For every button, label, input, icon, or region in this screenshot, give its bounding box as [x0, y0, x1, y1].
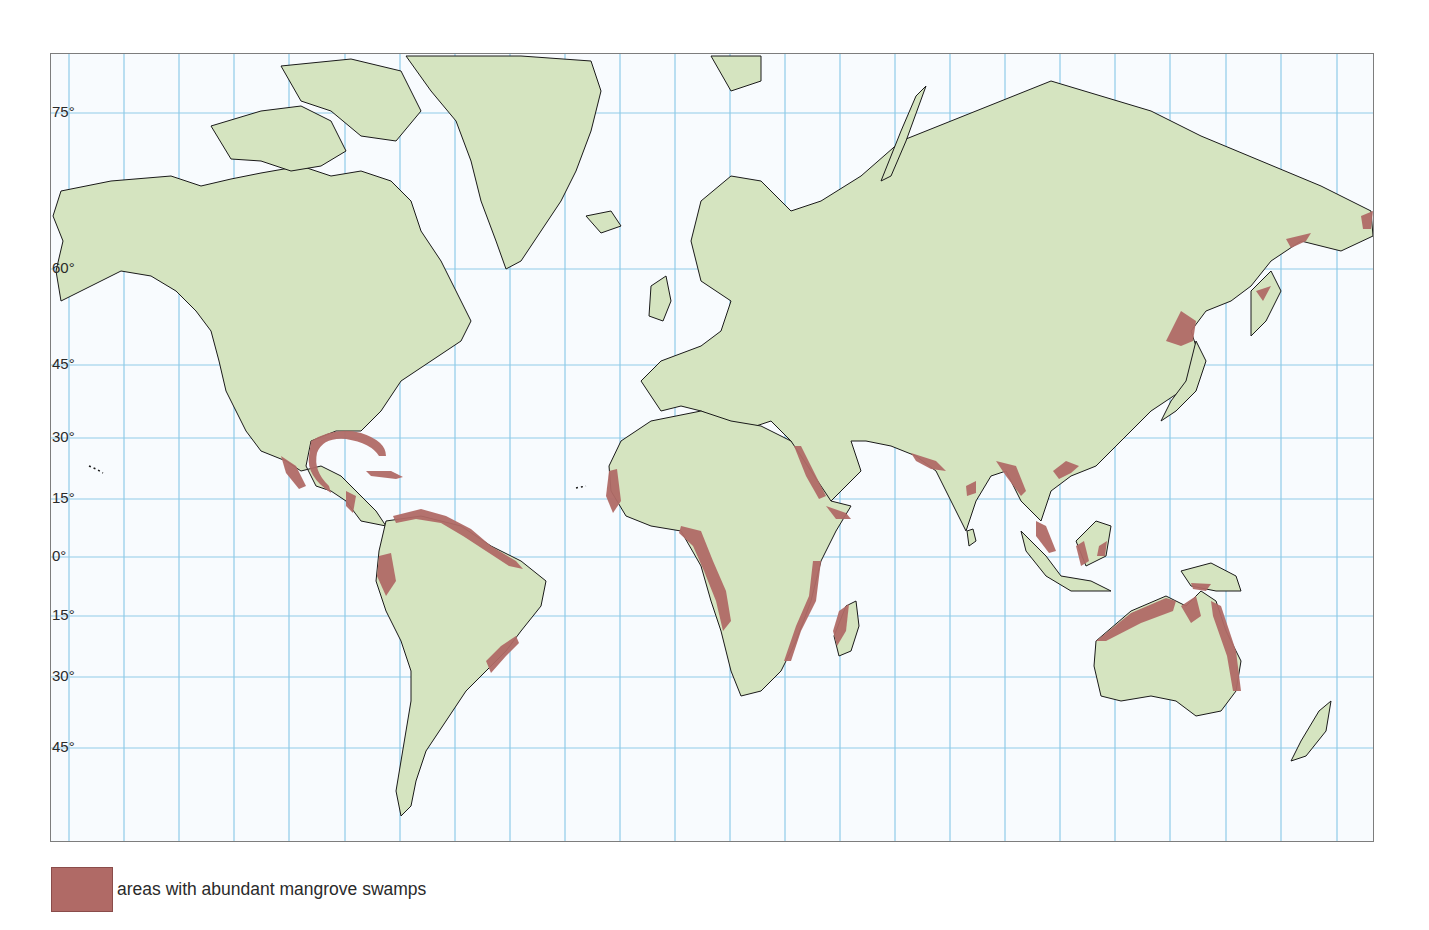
land-canadian-arctic-islands	[211, 59, 421, 171]
latitude-label: 30°	[52, 429, 75, 444]
island-canary	[576, 486, 586, 488]
legend-label-mangrove: areas with abundant mangrove swamps	[117, 879, 426, 900]
mangrove-malay-peninsula	[1036, 521, 1056, 553]
land-masses	[53, 56, 1373, 816]
island-hawaii	[89, 466, 103, 473]
map-frame	[50, 53, 1374, 842]
legend-swatch-mangrove	[51, 867, 113, 912]
legend: areas with abundant mangrove swamps	[51, 867, 426, 912]
mangrove-cuba	[366, 471, 403, 479]
land-new-guinea	[1181, 563, 1241, 591]
land-south-america	[376, 516, 546, 816]
world-map	[51, 54, 1374, 842]
land-new-zealand	[1291, 701, 1331, 761]
latitude-label: 75°	[52, 104, 75, 119]
latitude-label: 30°	[52, 668, 75, 683]
latitude-label: 45°	[52, 356, 75, 371]
land-greenland	[406, 56, 601, 269]
latitude-label: 45°	[52, 739, 75, 754]
land-uk	[649, 276, 671, 321]
land-north-america	[53, 166, 471, 526]
land-iceland	[586, 211, 621, 233]
land-svalbard-novaya-zemlya	[711, 56, 926, 181]
latitude-label: 15°	[52, 607, 75, 622]
latitude-label: 15°	[52, 490, 75, 505]
latitude-label: 0°	[52, 548, 66, 563]
latitude-label: 60°	[52, 260, 75, 275]
land-sri-lanka	[967, 529, 976, 546]
